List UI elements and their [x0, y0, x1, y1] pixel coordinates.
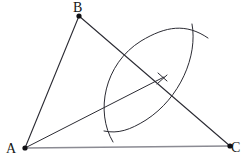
vertex-label-b: B [73, 1, 82, 15]
vertex-dot-A [22, 145, 27, 150]
vertex-label-c: C [231, 141, 240, 155]
geometry-figure: A B C [0, 0, 246, 167]
angle-bisector-ray [25, 77, 164, 148]
vertex-label-a: A [6, 142, 16, 156]
side-BC [79, 16, 230, 146]
side-AC [25, 146, 230, 148]
side-AB [25, 16, 79, 148]
construction-arc-right [104, 24, 193, 132]
geometry-canvas [0, 0, 246, 167]
